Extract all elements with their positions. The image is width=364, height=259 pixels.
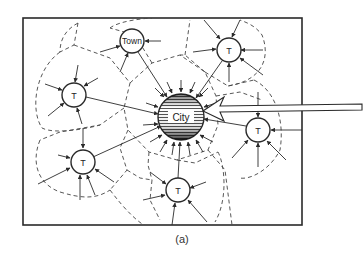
town-node-main: Town bbox=[120, 29, 144, 53]
town-t-label: T bbox=[255, 126, 261, 136]
town-t-label: T bbox=[226, 46, 232, 56]
town-node-right: T bbox=[246, 118, 270, 142]
city-node: City bbox=[158, 94, 204, 140]
town-node-bottom: T bbox=[166, 178, 190, 202]
city-label: City bbox=[172, 112, 189, 123]
town-t-label: T bbox=[175, 186, 181, 196]
town-t-label: T bbox=[71, 91, 77, 101]
town-label: Town bbox=[122, 36, 142, 46]
town-node-left: T bbox=[62, 83, 86, 107]
central-place-diagram: City Town T T T T T (a) bbox=[0, 0, 364, 259]
town-node-lower-left: T bbox=[71, 150, 95, 174]
figure-caption: (a) bbox=[0, 233, 364, 245]
town-node-upper-right: T bbox=[217, 38, 241, 62]
town-t-label: T bbox=[80, 158, 86, 168]
